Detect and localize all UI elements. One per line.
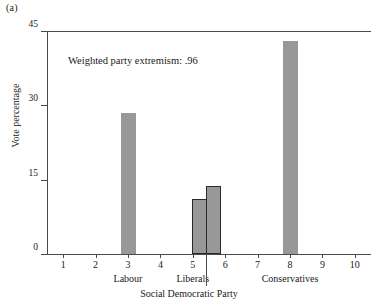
- y-axis-title: Vote percentage: [10, 56, 21, 176]
- x-tick-label: 7: [246, 259, 270, 270]
- bar: [121, 113, 136, 254]
- bar: [206, 186, 221, 254]
- party-label: Conservatives: [262, 273, 319, 284]
- sdp-pointer-line: [206, 255, 207, 286]
- x-tick-label: 5: [181, 259, 205, 270]
- y-tick-mark: [41, 254, 47, 255]
- x-tick-label: 3: [116, 259, 140, 270]
- x-tick-mark: [290, 254, 291, 258]
- x-tick-mark: [63, 254, 64, 258]
- y-tick-mark: [41, 105, 47, 106]
- x-tick-mark: [128, 254, 129, 258]
- x-tick-mark: [96, 254, 97, 258]
- party-label: Liberals: [176, 273, 209, 284]
- x-tick-label: 9: [310, 259, 334, 270]
- y-tick-mark: [41, 31, 47, 32]
- extremism-annotation: Weighted party extremism: .96: [68, 55, 198, 66]
- y-tick-mark: [41, 180, 47, 181]
- panel-label: (a): [6, 2, 18, 13]
- x-tick-label: 10: [343, 259, 367, 270]
- sdp-pointer-label: Social Democratic Party: [140, 288, 238, 299]
- y-tick-label: 15: [8, 168, 38, 178]
- y-tick-label: 30: [8, 93, 38, 103]
- party-label: Labour: [114, 273, 143, 284]
- x-tick-label: 2: [84, 259, 108, 270]
- figure-panel-a: (a) Vote percentage 0153045 12345678910 …: [0, 0, 376, 308]
- x-tick-mark: [225, 254, 226, 258]
- y-tick-label: 45: [8, 19, 38, 29]
- x-tick-label: 8: [278, 259, 302, 270]
- x-tick-label: 6: [213, 259, 237, 270]
- x-tick-label: 4: [148, 259, 172, 270]
- bar: [283, 41, 298, 254]
- y-tick-label: 0: [8, 242, 38, 252]
- bar: [192, 199, 207, 254]
- x-tick-mark: [193, 254, 194, 258]
- x-tick-mark: [160, 254, 161, 258]
- x-tick-mark: [355, 254, 356, 258]
- x-tick-label: 1: [51, 259, 75, 270]
- x-tick-mark: [258, 254, 259, 258]
- x-tick-mark: [322, 254, 323, 258]
